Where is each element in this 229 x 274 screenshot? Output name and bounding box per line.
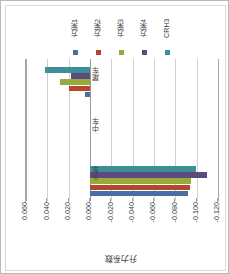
bar-group-3: 头车 — [26, 162, 218, 196]
legend-label: 方案3 — [117, 10, 124, 46]
bar — [90, 178, 191, 184]
bar-group-1: 尾车 — [26, 63, 218, 97]
legend-item-1: 方案1 — [64, 10, 86, 57]
gridline — [218, 59, 219, 201]
legend-swatch-icon — [96, 50, 101, 55]
plot-area: 尾车中车头车 — [25, 59, 218, 201]
bar — [69, 86, 90, 92]
bar — [90, 166, 196, 172]
bar — [90, 172, 207, 178]
value-axis-title: 升力系数 — [6, 254, 229, 266]
legend-label: 方案1 — [71, 10, 78, 46]
legend-swatch-icon — [142, 50, 147, 55]
value-axis-ticks: 0.0600.0400.0200.000-0.020-0.040-0.060-0… — [25, 202, 217, 254]
legend-item-4: 方案4 — [133, 10, 155, 57]
chart-frame: 方案1方案2方案3方案4CRH3 尾车中车头车 0.0600.0400.0200… — [0, 0, 229, 274]
legend-swatch-icon — [119, 50, 124, 55]
legend-label: CRH3 — [163, 10, 170, 46]
bar — [60, 79, 90, 85]
legend-label: 方案4 — [140, 10, 147, 46]
bar — [90, 191, 188, 197]
category-label-1: 尾车 — [92, 67, 99, 81]
category-label-3: 头车 — [92, 166, 99, 180]
legend-item-5: CRH3 — [156, 10, 178, 57]
legend-swatch-icon — [73, 50, 78, 55]
legend-item-2: 方案2 — [87, 10, 109, 57]
legend-label: 方案2 — [94, 10, 101, 46]
bar — [85, 92, 90, 98]
legend-swatch-icon — [165, 50, 170, 55]
category-label-2: 中车 — [92, 118, 99, 132]
bar-group-2: 中车 — [26, 114, 218, 148]
axis-tick-label: -0.120 — [213, 202, 220, 222]
axis-tick-10: -0.120 — [197, 202, 229, 254]
bar — [90, 185, 190, 191]
chart-plot-frame: 方案1方案2方案3方案4CRH3 尾车中车头车 0.0600.0400.0200… — [5, 5, 226, 271]
chart-legend: 方案1方案2方案3方案4CRH3 — [64, 10, 184, 57]
bar — [45, 67, 90, 73]
legend-item-3: 方案3 — [110, 10, 132, 57]
bar — [71, 73, 90, 79]
